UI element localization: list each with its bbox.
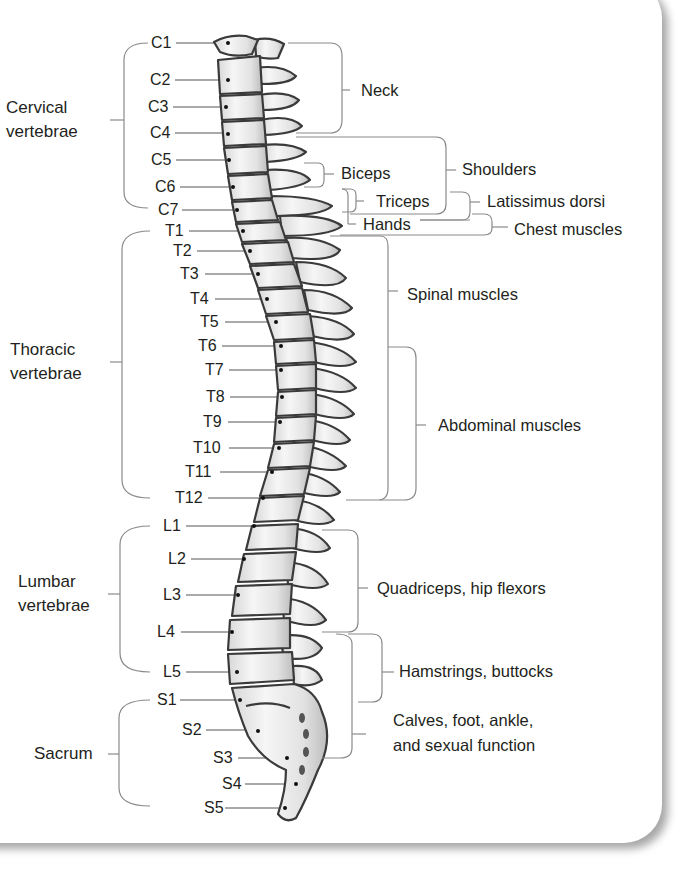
vertebra-label-s2: S2 — [182, 721, 202, 739]
muscle-label-hamstrings: Hamstrings, buttocks — [399, 662, 553, 681]
region-label-sacrum: Sacrum — [34, 742, 93, 766]
region-label-line: Lumbar — [18, 570, 90, 594]
vertebra-label-t2: T2 — [173, 242, 192, 260]
vertebra-label-t9: T9 — [203, 413, 222, 431]
muscle-label-line: Calves, foot, ankle, — [393, 711, 535, 730]
muscle-label-abdominal: Abdominal muscles — [438, 416, 581, 435]
muscle-label-chest: Chest muscles — [514, 220, 622, 239]
vertebra-label-c7: C7 — [158, 201, 178, 219]
region-label-cervical: Cervical vertebrae — [6, 96, 78, 144]
muscle-label-hands: Hands — [363, 215, 411, 234]
muscle-label-line: and sexual function — [393, 736, 535, 755]
region-label-thoracic: Thoracic vertebrae — [10, 338, 82, 386]
vertebra-label-t12: T12 — [175, 489, 203, 507]
region-label-line: vertebrae — [18, 594, 90, 618]
muscle-label-spinal: Spinal muscles — [407, 285, 518, 304]
vertebra-label-c5: C5 — [151, 151, 171, 169]
vertebra-label-l3: L3 — [163, 586, 181, 604]
vertebra-label-l5: L5 — [163, 663, 181, 681]
region-label-line: Sacrum — [34, 742, 93, 766]
vertebra-label-t3: T3 — [180, 265, 199, 283]
vertebra-label-t11: T11 — [185, 463, 211, 481]
vertebra-label-s3: S3 — [213, 749, 233, 767]
vertebra-label-l1: L1 — [163, 517, 181, 535]
vertebra-label-c2: C2 — [150, 71, 170, 89]
vertebra-label-t5: T5 — [200, 313, 219, 331]
vertebra-label-s4: S4 — [222, 775, 242, 793]
vertebra-label-c3: C3 — [148, 98, 168, 116]
region-label-lumbar: Lumbar vertebrae — [18, 570, 90, 618]
spine-illustration — [0, 0, 685, 872]
vertebra-label-t10: T10 — [193, 439, 221, 457]
vertebra-label-l4: L4 — [157, 623, 175, 641]
muscle-label-calves: Calves, foot, ankle, and sexual function — [393, 711, 535, 755]
region-label-line: vertebrae — [10, 362, 82, 386]
muscle-label-biceps: Biceps — [341, 164, 391, 183]
vertebra-label-s5: S5 — [204, 799, 224, 817]
sacrum-bone — [232, 684, 327, 820]
vertebra-label-t6: T6 — [198, 337, 217, 355]
vertebra-label-s1: S1 — [157, 691, 177, 709]
vertebra-label-c1: C1 — [151, 34, 171, 52]
region-label-line: Thoracic — [10, 338, 82, 362]
vertebra-label-l2: L2 — [168, 550, 186, 568]
muscle-label-triceps: Triceps — [376, 192, 429, 211]
muscle-label-neck: Neck — [361, 81, 399, 100]
region-label-line: vertebrae — [6, 120, 78, 144]
muscle-label-latissimus: Latissimus dorsi — [487, 192, 605, 211]
vertebra-label-c6: C6 — [155, 178, 175, 196]
vertebra-label-t8: T8 — [206, 388, 225, 406]
vertebra-label-t7: T7 — [205, 361, 224, 379]
muscle-label-shoulders: Shoulders — [462, 160, 536, 179]
vertebra-label-t4: T4 — [190, 290, 209, 308]
region-brackets — [108, 43, 150, 806]
region-label-line: Cervical — [6, 96, 78, 120]
vertebra-label-t1: T1 — [165, 222, 184, 240]
muscle-label-quadriceps: Quadriceps, hip flexors — [377, 579, 546, 598]
vertebra-label-c4: C4 — [150, 124, 170, 142]
